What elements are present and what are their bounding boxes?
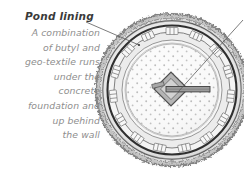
pond-lining-diagram-page: Pond lining A combination of butyl and g… [0, 0, 244, 178]
annotation-title: Pond lining [0, 10, 100, 23]
pond-lining-leader-endpoint [138, 44, 140, 46]
center-leader [178, 20, 243, 92]
annotation-line: geo-textile runs [0, 55, 100, 70]
annotation-line: concrete [0, 84, 100, 99]
annotation-block: Pond lining A combination of butyl and g… [0, 10, 104, 143]
annotation-line: up behind [0, 114, 100, 129]
annotation-line: A combination [0, 26, 100, 41]
annotation-line: of butyl and [0, 41, 100, 56]
annotation-line: under the [0, 70, 100, 85]
annotation-line: the wall [0, 128, 100, 143]
annotation-line: foundation and [0, 99, 100, 114]
